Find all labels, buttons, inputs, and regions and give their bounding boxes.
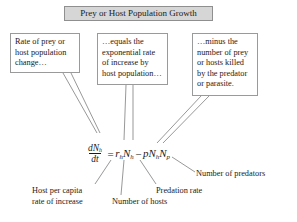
label-number-of-hosts: Number of hosts — [112, 197, 167, 208]
predator-variable: N — [159, 147, 166, 159]
label-host-per-capita-line1: Host per capita — [32, 186, 83, 197]
pointer-equals-edge-1 — [124, 85, 126, 140]
label-host-per-capita-line2: rate of increase — [32, 197, 83, 208]
term-growth: rhNh — [115, 147, 133, 160]
equation: dNh dt = rhNh − pNhNp — [86, 143, 170, 164]
pointer-rate-edge-1 — [63, 73, 97, 133]
pointer-minus-edge-2 — [163, 96, 209, 143]
equals-sign: = — [106, 148, 115, 160]
derivative-fraction: dNh dt — [86, 143, 104, 164]
label-predation-rate: Predation rate — [156, 186, 202, 197]
label-number-of-predators: Number of predators — [196, 169, 265, 180]
pointer-rate-edge-2 — [71, 73, 100, 133]
fraction-denominator: dt — [89, 153, 100, 164]
term-predation: pNhNp — [143, 147, 170, 160]
leader-number-of-predators — [172, 157, 195, 172]
predator-subscript: p — [167, 153, 170, 160]
callout-minus-killed: …minus the number of prey or hosts kille… — [192, 33, 258, 96]
numerator-text: dN — [88, 143, 99, 153]
host-variable-2: N — [148, 147, 155, 159]
label-host-per-capita: Host per capita rate of increase — [32, 186, 83, 207]
pointer-minus-edge-1 — [157, 96, 201, 143]
fraction-numerator: dNh — [86, 143, 104, 153]
diagram-title: Prey or Host Population Growth — [64, 6, 213, 21]
callout-rate-of-change: Rate of prey or host population change… — [10, 33, 80, 73]
minus-sign: − — [134, 148, 143, 160]
callout-equals-exponential: …equals the exponential rate of increase… — [97, 33, 168, 85]
figure-prey-host-population-growth: Prey or Host Population Growth Rate of p… — [0, 0, 297, 222]
leader-number-of-hosts — [121, 160, 124, 195]
